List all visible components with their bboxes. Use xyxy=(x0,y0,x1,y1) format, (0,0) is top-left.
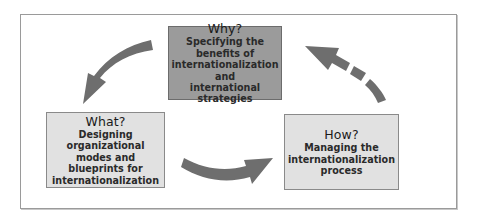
what-node-desc-line-3: internationalization xyxy=(52,175,159,186)
dashed-curved-arrow-up-left-icon xyxy=(305,46,386,103)
what-node-desc-line-2: modes and blueprints for xyxy=(49,152,162,175)
why-node-title: Why? xyxy=(208,21,243,36)
how-node: How? Managing the internationalization p… xyxy=(284,114,399,190)
what-node-title: What? xyxy=(86,114,126,129)
why-node-desc-line-3: international strategies xyxy=(171,82,279,105)
why-node-desc-line-1: Specifying the benefits of xyxy=(171,36,279,59)
curved-arrow-down-left-icon xyxy=(83,40,153,104)
what-node: What? Designing organizational modes and… xyxy=(46,112,165,188)
how-node-title: How? xyxy=(324,127,358,142)
how-node-desc-line-1: Managing the xyxy=(304,142,378,153)
why-node-desc-line-2: internationalization and xyxy=(171,59,279,82)
curved-arrow-right-icon xyxy=(181,158,273,184)
why-node: Why? Specifying the benefits of internat… xyxy=(168,26,282,100)
how-node-desc-line-2: internationalization xyxy=(288,154,395,165)
what-node-desc-line-1: Designing organizational xyxy=(49,129,162,152)
how-node-desc-line-3: process xyxy=(321,165,363,176)
